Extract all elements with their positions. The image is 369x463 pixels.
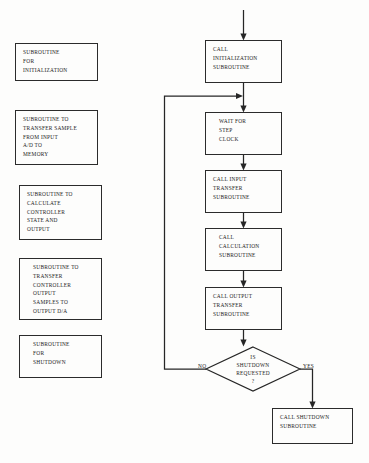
subroutine-box-shutdown: SUBROUTINE FOR SHUTDOWN [19, 335, 102, 378]
flow-box-call-output-transfer: CALL OUTPUT TRANSFER SUBROUTINE [205, 287, 282, 330]
flow-box-call-input-transfer: CALL INPUT TRANSFER SUBROUTINE [205, 170, 282, 213]
branch-label-yes: YES [303, 363, 314, 369]
flow-box-call-shutdown: CALL SHUTDOWN SUBROUTINE [272, 408, 353, 444]
flow-box-call-calculation: CALL CALCULATION SUBROUTINE [205, 228, 282, 271]
subroutine-box-calculate: SUBROUTINE TO CALCULATE CONTROLLER STATE… [19, 185, 102, 240]
flow-box-wait-step-clock: WAIT FOR STEP CLOCK [205, 112, 282, 155]
connector-yes-to-shutdown [300, 369, 313, 404]
subroutine-box-init: SUBROUTINE FOR INITIALIZATION [15, 43, 98, 81]
flowchart-diagram: SUBROUTINE FOR INITIALIZATION SUBROUTINE… [0, 0, 369, 463]
subroutine-box-input-transfer: SUBROUTINE TO TRANSFER SAMPLE FROM INPUT… [15, 110, 98, 165]
subroutine-box-output-transfer: SUBROUTINE TO TRANSFER CONTROLLER OUTPUT… [19, 258, 102, 320]
branch-label-no: NO [198, 363, 206, 369]
flow-box-call-init: CALL INITIALIZATION SUBROUTINE [205, 40, 282, 83]
decision-is-shutdown-requested: IS SHUTDOWN REQUESTED ? [205, 346, 301, 392]
